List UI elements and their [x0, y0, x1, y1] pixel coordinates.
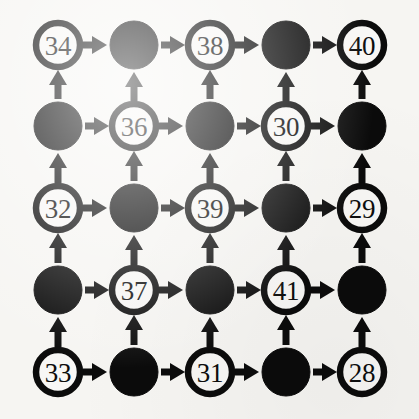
arrow-head-icon: [170, 36, 185, 54]
edge-arrow-right: [237, 117, 261, 135]
graph-figure: 34384036303239293741333128: [0, 0, 419, 419]
node-circle-filled[interactable]: [34, 266, 82, 314]
node-label: 30: [273, 112, 299, 142]
node-circle-filled[interactable]: [338, 266, 386, 314]
node-circle-filled[interactable]: [338, 102, 386, 150]
edge-arrow-right: [235, 36, 259, 54]
arrow-head-icon: [277, 72, 295, 87]
edge-arrow-up: [125, 151, 143, 181]
edge-arrow-up: [353, 153, 371, 183]
graph-node-38[interactable]: 38: [188, 23, 232, 67]
graph-node-r4c1[interactable]: [110, 348, 158, 396]
arrow-head-icon: [125, 151, 143, 166]
arrow-head-icon: [201, 233, 219, 248]
graph-node-r2c3[interactable]: [262, 184, 310, 232]
arrow-head-icon: [353, 70, 371, 85]
arrow-head-icon: [320, 117, 335, 135]
edge-arrow-right: [85, 117, 109, 135]
graph-node-r0c3[interactable]: [262, 21, 310, 69]
graph-node-r4c3[interactable]: [262, 348, 310, 396]
node-circle-filled[interactable]: [262, 348, 310, 396]
edge-arrow-right: [311, 117, 335, 135]
edge-arrow-up: [353, 70, 371, 99]
arrow-head-icon: [92, 36, 107, 54]
graph-node-37[interactable]: 37: [112, 268, 156, 312]
arrow-head-icon: [322, 363, 337, 381]
node-circle-filled[interactable]: [262, 184, 310, 232]
edge-arrow-right: [313, 363, 337, 381]
edge-arrow-up: [49, 153, 67, 183]
arrow-head-icon: [92, 363, 107, 381]
edge-arrow-up: [125, 315, 143, 345]
graph-node-r1c2[interactable]: [186, 102, 234, 150]
edge-arrow-up: [201, 70, 219, 99]
edge-arrow-up: [125, 72, 143, 101]
edge-arrow-up: [277, 72, 295, 101]
edge-arrow-up: [49, 70, 67, 99]
graph-node-r3c2[interactable]: [186, 266, 234, 314]
node-label: 39: [197, 194, 223, 224]
graph-node-39[interactable]: 39: [188, 186, 232, 230]
arrow-head-icon: [246, 117, 261, 135]
graph-node-30[interactable]: 30: [264, 104, 308, 148]
edge-arrow-right: [161, 199, 185, 217]
node-circle-filled[interactable]: [186, 102, 234, 150]
arrow-head-icon: [125, 315, 143, 330]
graph-node-r3c4[interactable]: [338, 266, 386, 314]
node-label: 32: [45, 194, 71, 224]
graph-node-r3c0[interactable]: [34, 266, 82, 314]
graph-node-r0c1[interactable]: [110, 21, 158, 69]
edge-arrow-right: [313, 199, 337, 217]
node-label: 28: [349, 358, 375, 388]
node-circle-filled[interactable]: [110, 348, 158, 396]
graph-node-40[interactable]: 40: [340, 23, 384, 67]
arrow-head-icon: [201, 317, 219, 332]
node-label: 31: [197, 358, 223, 388]
edge-arrow-right: [83, 199, 107, 217]
node-circle-filled[interactable]: [262, 21, 310, 69]
edge-arrow-right: [83, 363, 107, 381]
graph-node-41[interactable]: 41: [264, 268, 308, 312]
edge-arrow-up: [353, 317, 371, 347]
node-label: 38: [197, 31, 223, 61]
arrow-head-icon: [353, 317, 371, 332]
arrow-head-icon: [94, 117, 109, 135]
edge-arrow-up: [277, 235, 295, 265]
node-circle-filled[interactable]: [34, 102, 82, 150]
node-circle-filled[interactable]: [110, 21, 158, 69]
edge-arrow-up: [125, 235, 143, 265]
arrow-head-icon: [244, 363, 259, 381]
arrow-head-icon: [168, 117, 183, 135]
arrow-head-icon: [49, 317, 67, 332]
graph-node-31[interactable]: 31: [188, 350, 232, 394]
graph-node-29[interactable]: 29: [340, 186, 384, 230]
edge-arrow-up: [353, 233, 371, 263]
graph-node-r1c4[interactable]: [338, 102, 386, 150]
graph-node-34[interactable]: 34: [36, 23, 80, 67]
edge-arrow-right: [85, 281, 109, 299]
edge-arrow-up: [201, 153, 219, 183]
arrow-head-icon: [201, 70, 219, 85]
graph-node-r1c0[interactable]: [34, 102, 82, 150]
graph-node-32[interactable]: 32: [36, 186, 80, 230]
arrow-head-icon: [244, 199, 259, 217]
arrow-head-icon: [246, 281, 261, 299]
node-label: 29: [349, 194, 375, 224]
edge-arrow-right: [159, 281, 183, 299]
edge-arrow-right: [159, 117, 183, 135]
arrow-head-icon: [353, 153, 371, 168]
node-label: 40: [349, 31, 375, 61]
edge-arrow-right: [235, 363, 259, 381]
graph-node-33[interactable]: 33: [36, 350, 80, 394]
graph-node-r2c1[interactable]: [110, 184, 158, 232]
node-label: 33: [45, 358, 71, 388]
arrow-head-icon: [322, 36, 337, 54]
node-circle-filled[interactable]: [186, 266, 234, 314]
graph-node-28[interactable]: 28: [340, 350, 384, 394]
arrow-head-icon: [277, 151, 295, 166]
graph-node-36[interactable]: 36: [112, 104, 156, 148]
node-circle-filled[interactable]: [110, 184, 158, 232]
arrow-head-icon: [353, 233, 371, 248]
node-label: 41: [273, 276, 299, 306]
node-label: 36: [121, 112, 147, 142]
